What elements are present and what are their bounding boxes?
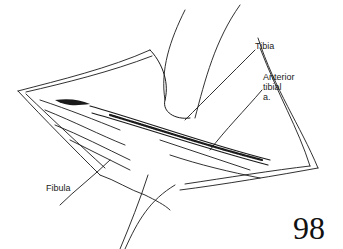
surgical-incision-drawing [0, 0, 343, 249]
incision-upper-left-edge [18, 50, 150, 91]
shadow-region [55, 99, 90, 105]
incision-upper-right-edge [258, 38, 318, 168]
page-number: 98 [293, 212, 325, 244]
label-fibula: Fibula [46, 183, 71, 193]
label-tibia: Tibia [255, 41, 274, 51]
anterior-tibial-leader-line [210, 90, 262, 150]
label-anterior-tibial-line2: tibial [263, 82, 282, 92]
incision-lower-right-edge [180, 168, 318, 190]
label-anterior-tibial-line1: Anterior [263, 72, 295, 82]
illustration-canvas: Tibia Anterior tibial a. Fibula 98 [0, 0, 343, 249]
label-anterior-tibial-line3: a. [263, 92, 271, 102]
